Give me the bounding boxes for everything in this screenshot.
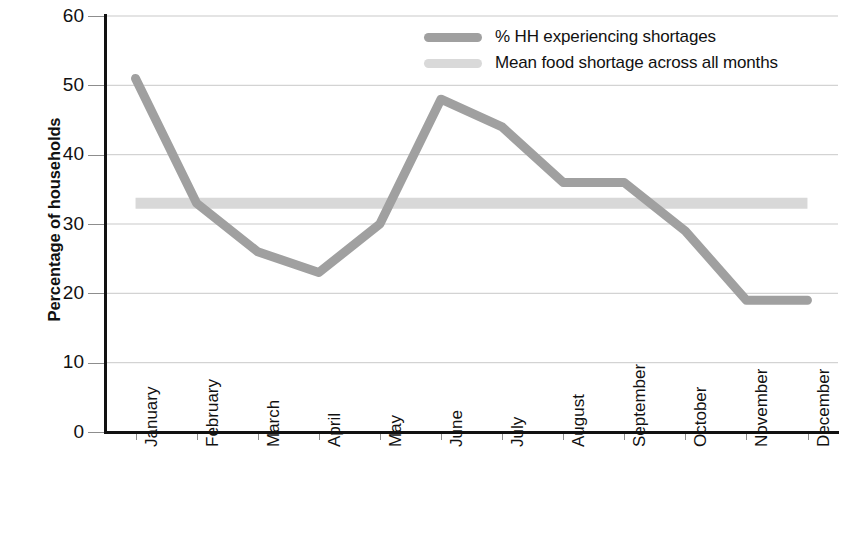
y-tickmark-10 xyxy=(88,363,105,364)
x-tick-label-june: June xyxy=(448,410,465,447)
y-tickmark-50 xyxy=(88,85,105,86)
x-tick-label-march: March xyxy=(265,400,282,447)
x-tickmark-november xyxy=(746,434,747,440)
y-tick-label-30: 30 xyxy=(38,214,84,233)
x-tickmark-april xyxy=(319,434,320,440)
plot-area xyxy=(105,16,838,432)
x-tickmark-january xyxy=(136,434,137,440)
x-tick-label-may: May xyxy=(387,415,404,447)
chart-legend: % HH experiencing shortages Mean food sh… xyxy=(424,24,824,76)
x-tickmark-february xyxy=(197,434,198,440)
y-tickmark-40 xyxy=(88,155,105,156)
x-tickmark-october xyxy=(685,434,686,440)
x-tick-label-august: August xyxy=(570,394,587,447)
x-tick-label-november: November xyxy=(753,369,770,447)
x-tickmark-july xyxy=(502,434,503,440)
x-tick-label-october: October xyxy=(692,387,709,447)
x-tickmark-september xyxy=(624,434,625,440)
y-axis-tick-labels: 60 50 40 30 20 10 0 xyxy=(36,0,84,543)
x-tickmark-december xyxy=(808,434,809,440)
x-tickmark-march xyxy=(258,434,259,440)
y-tickmark-30 xyxy=(88,224,105,225)
legend-entry-mean: Mean food shortage across all months xyxy=(424,50,824,76)
y-axis-line xyxy=(104,14,107,434)
legend-entry-shortages: % HH experiencing shortages xyxy=(424,24,824,50)
y-tickmark-20 xyxy=(88,293,105,294)
y-tick-label-50: 50 xyxy=(38,75,84,94)
x-tick-label-january: January xyxy=(143,387,160,447)
y-tick-label-60: 60 xyxy=(38,6,84,25)
y-tick-label-40: 40 xyxy=(38,144,84,163)
x-tickmark-august xyxy=(563,434,564,440)
shortages-series-line xyxy=(136,78,808,300)
line-chart: Percentage of households 60 50 40 30 20 … xyxy=(0,0,843,543)
y-tick-label-20: 20 xyxy=(38,283,84,302)
plot-svg xyxy=(105,16,838,432)
legend-label-mean: Mean food shortage across all months xyxy=(495,53,778,73)
x-tickmark-may xyxy=(380,434,381,440)
y-tickmark-60 xyxy=(88,16,105,17)
x-tick-label-december: December xyxy=(815,369,832,447)
x-tick-label-february: February xyxy=(204,379,221,447)
y-tickmark-0 xyxy=(88,432,105,433)
x-tick-label-september: September xyxy=(631,364,648,447)
x-tickmark-june xyxy=(441,434,442,440)
y-tick-label-10: 10 xyxy=(38,352,84,371)
legend-swatch-shortages xyxy=(424,33,482,42)
y-tick-label-0: 0 xyxy=(38,422,84,441)
legend-swatch-mean xyxy=(424,59,482,68)
x-tick-label-july: July xyxy=(509,417,526,447)
legend-label-shortages: % HH experiencing shortages xyxy=(495,27,716,47)
x-tick-label-april: April xyxy=(326,413,343,447)
